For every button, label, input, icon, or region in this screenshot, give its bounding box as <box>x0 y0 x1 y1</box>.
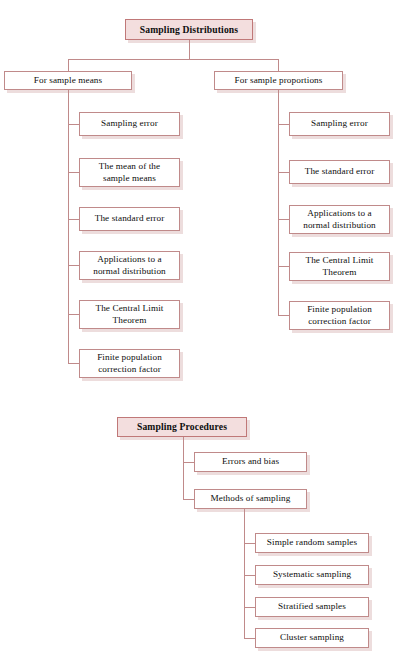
node-label: For sample means <box>34 75 102 86</box>
connector-root-stem <box>189 40 190 59</box>
node-label: Finite population correction factor <box>97 352 162 374</box>
node-label: Cluster sampling <box>280 632 344 643</box>
node-proportions-applications-normal-distribution: Applications to a normal distribution <box>289 205 390 234</box>
connector-methods-stub <box>244 607 255 608</box>
connector-right-stub <box>278 219 289 220</box>
node-sampling-distributions: Sampling Distributions <box>125 19 253 40</box>
node-stratified-samples: Stratified samples <box>255 597 369 617</box>
node-label: Applications to a normal distribution <box>303 208 376 230</box>
connector-procedures-stub <box>183 499 194 500</box>
node-label: Finite population correction factor <box>307 304 372 326</box>
node-for-sample-means: For sample means <box>4 71 132 90</box>
node-cluster-sampling: Cluster sampling <box>255 628 369 648</box>
connector-procedures-trunk <box>183 437 184 499</box>
connector-left-stub <box>68 219 79 220</box>
connector-right-stub <box>278 315 289 316</box>
node-proportions-central-limit-theorem: The Central Limit Theorem <box>289 252 390 281</box>
node-for-sample-proportions: For sample proportions <box>214 71 343 90</box>
node-proportions-standard-error: The standard error <box>289 160 390 184</box>
connector-left-stub <box>68 363 79 364</box>
node-label: The standard error <box>305 166 375 177</box>
node-means-sampling-error: Sampling error <box>79 112 180 136</box>
node-label: Methods of sampling <box>211 493 291 504</box>
node-sampling-procedures: Sampling Procedures <box>117 417 247 437</box>
node-label: The Central Limit Theorem <box>95 303 163 325</box>
connector-left-branch-drop <box>68 59 69 71</box>
connector-right-branch-drop <box>278 59 279 71</box>
node-systematic-sampling: Systematic sampling <box>255 565 369 585</box>
node-label: Sampling error <box>311 118 368 129</box>
node-simple-random-samples: Simple random samples <box>255 533 369 553</box>
node-means-finite-population-correction-factor: Finite population correction factor <box>79 349 180 378</box>
connector-methods-stem <box>244 509 245 521</box>
connector-left-stub <box>68 124 79 125</box>
node-proportions-finite-population-correction-factor: Finite population correction factor <box>289 301 390 330</box>
node-label: Errors and bias <box>222 456 279 467</box>
connector-methods-stub <box>244 575 255 576</box>
connector-left-stub <box>68 172 79 173</box>
connector-methods-stub <box>244 638 255 639</box>
node-label: Applications to a normal distribution <box>93 254 166 276</box>
connector-left-stub <box>68 314 79 315</box>
node-label: Sampling error <box>101 118 158 129</box>
node-label: Sampling Distributions <box>140 24 238 36</box>
node-label: The Central Limit Theorem <box>305 255 373 277</box>
node-errors-and-bias: Errors and bias <box>194 452 307 472</box>
node-methods-of-sampling: Methods of sampling <box>194 489 307 509</box>
node-label: Systematic sampling <box>273 569 351 580</box>
node-label: Stratified samples <box>278 601 346 612</box>
connector-methods-trunk <box>244 521 245 638</box>
node-means-standard-error: The standard error <box>79 207 180 231</box>
connector-right-stub <box>278 266 289 267</box>
node-means-applications-normal-distribution: Applications to a normal distribution <box>79 251 180 280</box>
connector-right-stub <box>278 124 289 125</box>
node-label: Sampling Procedures <box>137 421 227 433</box>
node-means-mean-of-sample-means: The mean of the sample means <box>79 158 180 187</box>
connector-left-trunk <box>68 90 69 363</box>
connector-methods-stub <box>244 543 255 544</box>
connector-root-split <box>68 59 279 60</box>
connector-right-stub <box>278 172 289 173</box>
connector-left-stub <box>68 265 79 266</box>
node-proportions-sampling-error: Sampling error <box>289 112 390 136</box>
node-label: The mean of the sample means <box>99 161 160 183</box>
node-label: The standard error <box>95 213 165 224</box>
connector-procedures-stub <box>183 462 194 463</box>
diagram-canvas: Sampling Distributions For sample means … <box>0 0 411 665</box>
node-means-central-limit-theorem: The Central Limit Theorem <box>79 300 180 329</box>
node-label: Simple random samples <box>267 537 357 548</box>
node-label: For sample proportions <box>235 75 323 86</box>
